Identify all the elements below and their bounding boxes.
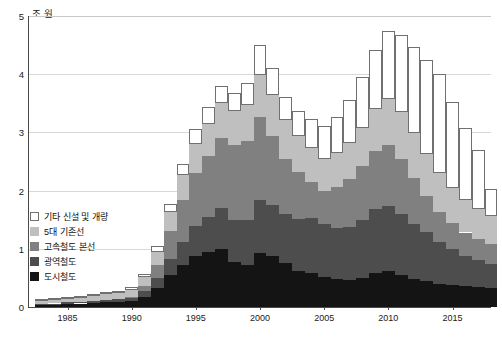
bar-segment [228, 262, 241, 307]
bar-segment [343, 179, 356, 227]
bar-group[interactable] [164, 16, 177, 307]
bar-segment [356, 166, 369, 220]
bar-group[interactable] [408, 16, 421, 307]
bar-group[interactable] [395, 16, 408, 307]
bar-segment [241, 83, 254, 105]
bar-group[interactable] [420, 16, 433, 307]
bar-segment [356, 220, 369, 278]
legend-item-label: 광역철도 [44, 255, 76, 268]
x-axis-tick-mark [324, 307, 325, 310]
bar-segment [485, 189, 498, 216]
bar-segment [292, 172, 305, 219]
x-axis-tick-mark [196, 307, 197, 310]
bar-segment [241, 220, 254, 265]
bar-segment [395, 275, 408, 307]
legend-item-urban_rail[interactable]: 도시철도 [30, 270, 108, 283]
bar-group[interactable] [241, 16, 254, 307]
bar-group[interactable] [266, 16, 279, 307]
bar-segment [446, 102, 459, 188]
bar-group[interactable] [228, 16, 241, 307]
bar-group[interactable] [356, 16, 369, 307]
bar-segment [215, 249, 228, 307]
bar-segment [151, 265, 164, 278]
y-axis-tick-label: 5 [19, 11, 24, 22]
chart-container: 조 원 012345 1985199019952000200520102015 … [0, 0, 502, 342]
bar-group[interactable] [138, 16, 151, 307]
bar-segment [125, 287, 138, 289]
bar-segment [382, 99, 395, 144]
bar-segment [215, 208, 228, 249]
bar-segment [202, 124, 215, 156]
bar-segment [343, 280, 356, 307]
legend-item-etc[interactable]: 기타 신설 및 개량 [30, 210, 108, 223]
bar-group[interactable] [369, 16, 382, 307]
bar-segment [369, 50, 382, 109]
bar-group[interactable] [125, 16, 138, 307]
bar-segment [485, 216, 498, 244]
bar-segment [459, 200, 472, 233]
bar-segment [356, 77, 369, 128]
bar-group[interactable] [446, 16, 459, 307]
bar-group[interactable] [112, 16, 125, 307]
bar-group[interactable] [292, 16, 305, 307]
bar-segment [472, 260, 485, 287]
bar-segment [433, 242, 446, 284]
bar-group[interactable] [279, 16, 292, 307]
bar-segment [100, 302, 113, 307]
bar-group[interactable] [485, 16, 498, 307]
bar-segment [356, 128, 369, 166]
bar-segment [61, 302, 74, 304]
bar-group[interactable] [331, 16, 344, 307]
bar-group[interactable] [343, 16, 356, 307]
bar-segment [189, 144, 202, 173]
bar-segment [408, 133, 421, 178]
bar-group[interactable] [459, 16, 472, 307]
bar-group[interactable] [433, 16, 446, 307]
bar-group[interactable] [177, 16, 190, 307]
bar-segment [395, 112, 408, 159]
bar-segment [215, 86, 228, 103]
bar-group[interactable] [215, 16, 228, 307]
legend-item-hsr_main[interactable]: 고속철도 본선 [30, 240, 108, 253]
x-axis-tick-mark [132, 307, 133, 310]
x-axis-tick-mark [260, 307, 261, 310]
bar-group[interactable] [382, 16, 395, 307]
legend-item-metro_wide[interactable]: 광역철도 [30, 255, 108, 268]
bar-segment [331, 228, 344, 279]
bar-segment [112, 302, 125, 307]
bar-segment [254, 200, 267, 254]
bar-segment [408, 224, 421, 279]
bar-segment [35, 304, 48, 305]
bar-group[interactable] [472, 16, 485, 307]
bar-segment [215, 138, 228, 208]
bar-segment [395, 159, 408, 214]
bar-group[interactable] [318, 16, 331, 307]
bar-group[interactable] [305, 16, 318, 307]
bar-group[interactable] [151, 16, 164, 307]
bar-segment [164, 212, 177, 231]
bar-segment [202, 217, 215, 252]
legend-swatch-icon [30, 257, 39, 266]
bar-segment [241, 141, 254, 220]
bar-segment [112, 292, 125, 298]
y-axis-tick-label: 3 [19, 127, 24, 138]
bar-segment [305, 218, 318, 273]
bar-group[interactable] [254, 16, 267, 307]
bar-group[interactable] [202, 16, 215, 307]
bar-segment [369, 109, 382, 151]
bar-segment [292, 136, 305, 172]
bar-segment [279, 97, 292, 120]
bar-segment [254, 45, 267, 75]
bar-segment [331, 153, 344, 187]
bar-group[interactable] [189, 16, 202, 307]
bar-segment [138, 297, 151, 307]
bar-segment [305, 119, 318, 148]
bar-segment [292, 111, 305, 135]
bar-segment [420, 196, 433, 232]
bar-segment [318, 277, 331, 307]
bar-segment [202, 156, 215, 217]
legend-item-five_lines[interactable]: 5대 기존선 [30, 225, 108, 238]
bar-segment [177, 164, 190, 176]
bar-segment [151, 246, 164, 252]
bar-segment [433, 212, 446, 242]
